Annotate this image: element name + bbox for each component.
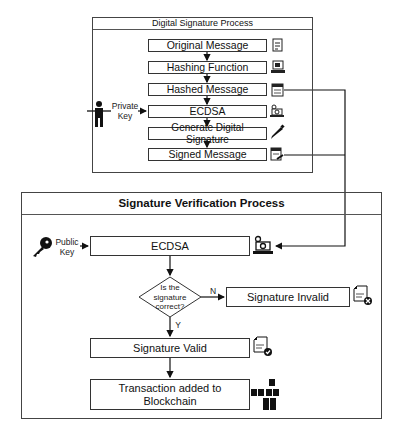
private-key-label: Private Key xyxy=(111,101,139,121)
valid-document-icon xyxy=(253,336,273,358)
signature-invalid-label: Signature Invalid xyxy=(247,291,329,304)
blockchain-icon xyxy=(251,379,281,411)
step-generate-signature: Generate Digital Signature xyxy=(148,127,267,140)
public-key-label-line2: Key xyxy=(54,247,80,257)
key-icon xyxy=(30,236,54,258)
signing-process-title: Digital Signature Process xyxy=(93,18,312,30)
decision-line: Is the xyxy=(143,283,197,293)
verify-ecdsa-box: ECDSA xyxy=(90,236,250,256)
step-hashing-function: Hashing Function xyxy=(148,61,267,74)
step-ecdsa-sign: ECDSA xyxy=(148,105,267,118)
transaction-line: Transaction added to xyxy=(119,382,222,395)
computer-icon xyxy=(271,60,285,74)
step-label: Original Message xyxy=(167,39,249,51)
signature-valid-label: Signature Valid xyxy=(133,342,207,355)
person-icon xyxy=(87,100,111,128)
step-label: ECDSA xyxy=(189,105,225,117)
private-key-label-line1: Private xyxy=(111,101,139,111)
no-branch-label: N xyxy=(208,286,218,296)
decision-line: signature xyxy=(143,293,197,303)
step-label: Hashed Message xyxy=(167,83,249,95)
step-hashed-message: Hashed Message xyxy=(148,83,267,96)
yes-branch-label: Y xyxy=(173,320,183,330)
signature-valid-box: Signature Valid xyxy=(90,338,250,358)
step-original-message: Original Message xyxy=(148,39,267,52)
crypto-laptop-icon xyxy=(270,104,284,118)
public-key-label-line1: Public xyxy=(54,237,80,247)
invalid-document-icon xyxy=(353,285,373,307)
decision-line: correct? xyxy=(143,302,197,312)
step-label: Signed Message xyxy=(168,148,246,160)
private-key-label-line2: Key xyxy=(111,111,139,121)
decision-text: Is the signature correct? xyxy=(143,283,197,312)
verify-ecdsa-label: ECDSA xyxy=(151,240,189,253)
public-key-label: Public Key xyxy=(54,237,80,257)
verification-process-title: Signature Verification Process xyxy=(22,193,381,215)
step-label: Generate Digital Signature xyxy=(149,122,266,145)
signed-document-icon xyxy=(270,147,284,162)
step-label: Hashing Function xyxy=(167,61,249,73)
step-signed-message: Signed Message xyxy=(148,148,267,161)
signature-invalid-box: Signature Invalid xyxy=(226,287,350,307)
pen-icon xyxy=(270,124,286,140)
transaction-line: Blockchain xyxy=(143,395,196,408)
transaction-added-box: Transaction added to Blockchain xyxy=(90,379,250,410)
hash-document-icon xyxy=(271,83,284,97)
document-icon xyxy=(272,38,284,53)
crypto-laptop-icon xyxy=(253,235,273,255)
